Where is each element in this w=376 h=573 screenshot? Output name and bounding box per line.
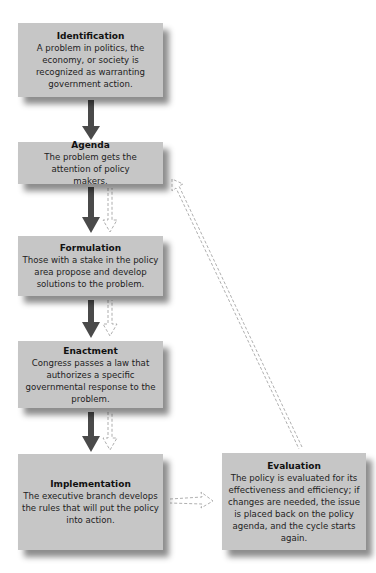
step-enactment: Enactment Congress passes a law that aut… [18, 341, 163, 408]
solid-arrow-agenda-formulation [82, 187, 100, 233]
step-title: Formulation [60, 242, 121, 254]
step-description: The problem gets the attention of policy… [22, 151, 159, 187]
solid-arrow-enactment-implementation [82, 412, 100, 452]
step-title: Identification [57, 30, 125, 42]
dashed-arrow-enactment-formulation [103, 300, 117, 336]
step-description: The policy is evaluated for its effectiv… [226, 472, 362, 544]
dashed-arrow-evaluation-agenda [172, 179, 302, 449]
step-formulation: Formulation Those with a stake in the po… [18, 236, 163, 296]
step-title: Agenda [71, 139, 109, 151]
step-title: Implementation [50, 478, 131, 490]
step-title: Enactment [63, 345, 117, 357]
solid-arrow-identification-agenda [82, 100, 100, 140]
dashed-arrow-implementation-evaluation [170, 492, 213, 508]
step-title: Evaluation [267, 460, 321, 472]
step-evaluation: Evaluation The policy is evaluated for i… [222, 453, 366, 550]
solid-arrow-formulation-enactment [82, 300, 100, 338]
dashed-arrow-implementation-enactment [103, 412, 117, 450]
step-implementation: Implementation The executive branch deve… [18, 454, 163, 550]
step-identification: Identification A problem in politics, th… [18, 23, 163, 97]
dashed-arrow-formulation-agenda [103, 188, 117, 232]
step-description: The executive branch develops the rules … [22, 490, 159, 526]
step-agenda: Agenda The problem gets the attention of… [18, 142, 163, 184]
step-description: Congress passes a law that authorizes a … [22, 357, 159, 405]
step-description: A problem in politics, the economy, or s… [22, 42, 159, 90]
step-description: Those with a stake in the policy area pr… [22, 254, 159, 290]
